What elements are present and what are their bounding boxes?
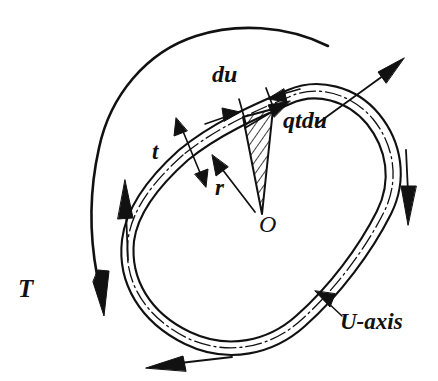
figure-container: T du qtdu t r O U-axis	[0, 0, 438, 381]
shear-arrow-top-right	[318, 58, 404, 123]
u-axis-label: U-axis	[340, 310, 403, 333]
shear-arrow-right	[401, 150, 416, 225]
torque-label: T	[18, 276, 33, 301]
shear-arrow-left	[118, 180, 133, 260]
thickness-label: t	[152, 140, 158, 163]
torque-arrowhead	[93, 270, 109, 316]
shear-arrow-bottom	[146, 356, 232, 371]
element-length-label: du	[212, 62, 237, 86]
shear-force-label: qtdu	[283, 108, 327, 132]
hatched-wedge	[243, 109, 273, 214]
thickness-dimension	[174, 118, 208, 187]
radius-label: r	[215, 176, 224, 199]
origin-label: O	[259, 212, 276, 236]
